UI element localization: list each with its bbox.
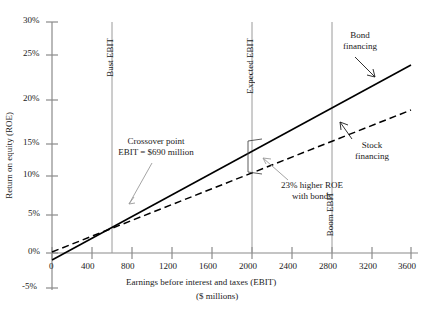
x-axis-title: Earnings before interest and taxes (EBIT… [126, 277, 276, 287]
roe-ebit-chart: Return on equity (ROE) 30% 25% 20% 15% 1… [0, 0, 421, 315]
roe-gap-bracket [248, 139, 262, 174]
ytick-label-neg5: -5% [22, 281, 37, 291]
xtick-label-2000: 2000 [239, 261, 257, 271]
bond-label-leader-line [355, 57, 375, 77]
xtick-label-2400: 2400 [279, 261, 297, 271]
annotation-crossover-line1: Crossover point [96, 136, 216, 147]
annotation-roe-gap-line2: with bonds [267, 191, 357, 202]
xtick-label-1600: 1600 [199, 261, 217, 271]
annotation-stock-financing: Stock financing [340, 140, 404, 162]
annotation-bond-financing: Bond financing [328, 30, 392, 52]
x-axis-units: ($ millions) [196, 291, 238, 301]
y-axis-title: Return on equity (ROE) [4, 112, 14, 199]
xtick-label-2800: 2800 [319, 261, 337, 271]
vline-label-bust-ebit: Bust EBIT [105, 38, 115, 77]
cropped-caption-sliver [22, 0, 24, 3]
ytick-label-15: 15% [23, 137, 40, 147]
annotation-stock-line1: Stock [340, 140, 404, 151]
ytick-label-30: 30% [23, 15, 40, 25]
annotation-crossover-line2: EBIT = $690 million [96, 147, 216, 158]
annotation-bond-line2: financing [328, 41, 392, 52]
annotation-stock-line2: financing [340, 151, 404, 162]
vline-label-expected-ebit: Expected EBIT [245, 38, 255, 94]
xtick-label-3600: 3600 [398, 261, 416, 271]
roe-gap-leader-line [263, 158, 288, 180]
xtick-label-1200: 1200 [159, 261, 177, 271]
ytick-label-20: 20% [23, 93, 40, 103]
annotation-crossover: Crossover point EBIT = $690 million [96, 136, 216, 158]
ytick-label-5: 5% [28, 208, 40, 218]
annotation-roe-gap: 23% higher ROE with bonds [267, 180, 357, 202]
crossover-leader-line [129, 163, 152, 204]
annotation-roe-gap-line1: 23% higher ROE [267, 180, 357, 191]
xtick-label-0: 0 [49, 261, 54, 271]
annotation-bond-line1: Bond [328, 30, 392, 41]
ytick-label-10: 10% [23, 169, 40, 179]
xtick-label-400: 400 [81, 261, 95, 271]
xtick-label-3200: 3200 [359, 261, 377, 271]
ytick-label-25: 25% [23, 48, 40, 58]
ytick-label-0: 0% [28, 246, 40, 256]
xtick-label-800: 800 [121, 261, 135, 271]
series-stock-financing [52, 110, 411, 252]
